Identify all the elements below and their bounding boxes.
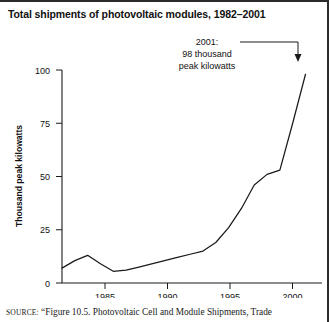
annotation-leader [240,42,302,62]
y-tick-label-50: 50 [40,172,50,182]
page-title: Total shipments of photovoltaic modules,… [8,8,308,20]
annotation-line-3: peak kilowatts [179,61,236,71]
x-tick-label-1990: 1990 [157,292,177,298]
page-top-border [0,0,329,2]
x-tick-marks [105,283,293,289]
y-tick-label-0: 0 [45,279,50,289]
figure-page: Total shipments of photovoltaic modules,… [0,0,329,322]
annotation-arrow-icon [295,54,302,62]
source-note: SOURCE: “Figure 10.5. Photovoltaic Cell … [6,307,324,318]
source-text: “Figure 10.5. Photovoltaic Cell and Modu… [41,307,272,317]
source-label: SOURCE: [6,308,39,317]
line-chart-svg: 0 25 50 75 100 Thousand peak kilowatts 1… [0,26,329,298]
y-tick-marks [56,70,62,283]
annotation-line-1: 2001: [196,37,219,47]
annotation-line-2: 98 thousand [182,49,232,59]
y-tick-label-100: 100 [35,66,50,76]
x-tick-label-1995: 1995 [220,292,240,298]
x-tick-label-1985: 1985 [95,292,115,298]
y-tick-label-25: 25 [40,225,50,235]
y-axis-title: Thousand peak kilowatts [14,125,24,227]
x-tick-label-2000: 2000 [282,292,302,298]
y-tick-label-75: 75 [40,119,50,129]
data-series-line [62,74,306,271]
chart-area: 0 25 50 75 100 Thousand peak kilowatts 1… [0,26,329,298]
